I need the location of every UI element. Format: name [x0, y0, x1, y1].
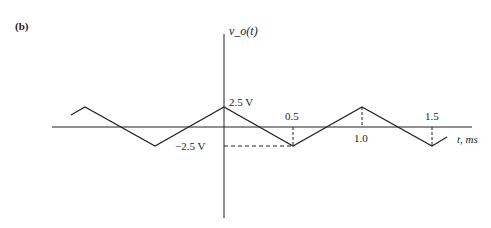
y-axis-label: v_o(t) [229, 25, 258, 37]
tick-label-1.5: 1.5 [425, 111, 439, 122]
figure: (b) v_o(t) 2.5 V −2.5 V 0.5 1.0 1.5 t, m… [0, 0, 491, 228]
min-label: −2.5 V [175, 141, 205, 152]
tick-label-0.5: 0.5 [285, 111, 299, 122]
x-axis-label: t, ms [457, 134, 478, 145]
panel-label: (b) [15, 21, 28, 32]
tick-label-1.0: 1.0 [354, 133, 368, 144]
max-label: 2.5 V [229, 97, 253, 108]
